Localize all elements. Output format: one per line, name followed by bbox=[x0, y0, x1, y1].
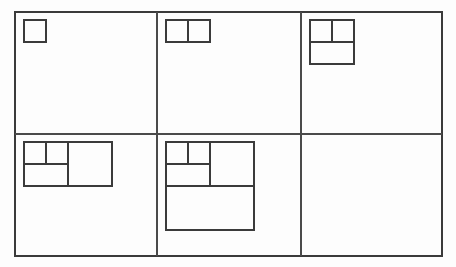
cell-3-square-pair-plus-two bbox=[310, 20, 354, 64]
cell-4-plus-three bbox=[24, 142, 112, 186]
cell-1-single-square-outline bbox=[24, 20, 46, 42]
cell-1-single-square bbox=[24, 20, 46, 42]
figure-canvas bbox=[0, 0, 456, 267]
grid-dividers bbox=[15, 12, 442, 256]
cell-5-plus-four bbox=[166, 142, 254, 230]
cell-2-two-squares bbox=[166, 20, 210, 42]
fibonacci-tiling-diagram bbox=[0, 0, 456, 267]
